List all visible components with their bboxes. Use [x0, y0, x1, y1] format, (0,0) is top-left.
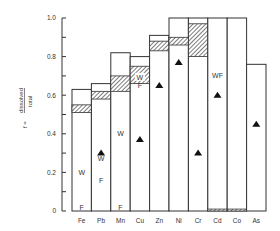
x-tick-label: Mn — [116, 217, 125, 224]
x-tick-label: Co — [233, 217, 242, 224]
hatched-range — [72, 105, 91, 113]
hatched-range — [150, 41, 169, 51]
bar-outline — [150, 35, 169, 211]
y-tick-label: 0.2 — [47, 169, 56, 176]
bar-fe — [72, 89, 91, 211]
x-tick-label: Cd — [213, 217, 222, 224]
bar-annotation: F — [99, 177, 103, 184]
bar-cr — [188, 18, 207, 211]
ylabel-denominator: total — [27, 96, 33, 107]
y-axis: 00.20.40.60.81.0 — [47, 14, 66, 214]
bar-annotation: F — [80, 204, 84, 211]
y-tick-label: 0 — [52, 207, 56, 214]
bar-annotation: F — [118, 204, 122, 211]
bar-annotation: W — [78, 169, 85, 176]
y-axis-label: f =dissolvedtotal — [18, 88, 33, 128]
x-tick-label: Zn — [156, 217, 164, 224]
bar-outline — [208, 18, 227, 211]
bar-annotation: W — [117, 130, 124, 137]
hatched-range — [227, 209, 246, 211]
y-tick-label: 0.6 — [47, 92, 56, 99]
ylabel-prefix: f = — [22, 121, 28, 128]
bar-outline — [169, 18, 188, 211]
bar-annotation: W — [98, 155, 105, 162]
bar-annotation: F — [138, 82, 142, 89]
bar-pb — [91, 84, 110, 211]
x-tick-label: Ni — [176, 217, 182, 224]
bar-ni — [169, 18, 188, 211]
bar-outline — [247, 64, 266, 211]
x-tick-label: As — [253, 217, 261, 224]
bar-annotation: W — [137, 74, 144, 81]
bar-cd — [208, 18, 227, 211]
hatched-range — [111, 76, 130, 91]
bars-group: WFWFWFWFWF — [72, 18, 266, 211]
bar-outline — [91, 84, 110, 211]
y-tick-label: 0.8 — [47, 53, 56, 60]
ylabel-numerator: dissolved — [18, 88, 24, 113]
x-tick-label: Cr — [195, 217, 203, 224]
hatched-range — [169, 37, 188, 45]
hatched-range — [91, 91, 110, 99]
x-tick-label: Pb — [97, 217, 105, 224]
bar-chart: 00.20.40.60.81.0 f =dissolvedtotal WFWFW… — [0, 0, 280, 231]
hatched-range — [188, 24, 207, 57]
bar-as — [247, 64, 266, 211]
bar-co — [227, 18, 246, 211]
hatched-range — [208, 209, 227, 211]
x-tick-label: Fe — [78, 217, 86, 224]
bar-annotation: WF — [212, 72, 223, 79]
x-axis-labels: FePbMnCuZnNiCrCdCoAs — [78, 217, 261, 224]
bar-outline — [227, 18, 246, 211]
y-tick-label: 0.4 — [47, 130, 56, 137]
y-tick-label: 1.0 — [47, 14, 56, 21]
x-tick-label: Cu — [136, 217, 145, 224]
bar-zn — [150, 35, 169, 211]
